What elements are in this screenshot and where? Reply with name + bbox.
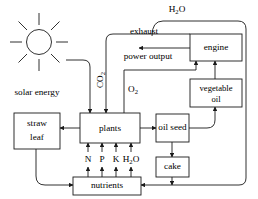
node-vegetable-oil[interactable]: vegetable oil: [190, 79, 242, 107]
label-nutrient-h2o-tail: O: [133, 154, 140, 164]
label-nutrient-h2o: H2O: [123, 154, 140, 165]
node-oil-seed-label: oil seed: [158, 122, 187, 132]
node-straw-leaf[interactable]: straw leaf: [14, 113, 60, 149]
edge-co2-to-plants: [106, 34, 190, 113]
label-nutrient-k: K: [113, 154, 120, 164]
node-plants[interactable]: plants: [80, 113, 140, 143]
sun-icon: [10, 13, 68, 71]
label-nutrient-p: P: [99, 154, 104, 164]
label-h2o-top: H2O: [169, 4, 186, 15]
svg-text:CO2: CO2: [95, 72, 106, 88]
label-co2-sub: 2: [99, 72, 106, 75]
label-exhaust: exhaust: [130, 26, 159, 36]
edge-seed-to-oil: [189, 107, 215, 128]
edge-solar-to-plants: [66, 60, 90, 113]
node-engine[interactable]: engine: [190, 34, 242, 61]
biofuel-cycle-diagram: plants straw leaf oil seed cake nutrient…: [0, 0, 258, 199]
label-h2o-top-tail: O: [179, 4, 186, 14]
label-o2-sub: 2: [135, 88, 138, 95]
label-solar-energy: solar energy: [15, 87, 60, 97]
label-power-output: power output: [124, 51, 173, 61]
node-vegetable-oil-label-line2: oil: [211, 94, 221, 104]
node-plants-label: plants: [99, 123, 121, 133]
node-straw-leaf-label-line1: straw: [27, 118, 47, 128]
node-oil-seed[interactable]: oil seed: [156, 114, 189, 142]
node-nutrients[interactable]: nutrients: [73, 177, 141, 195]
node-engine-label: engine: [204, 42, 229, 52]
diagram-canvas: plants straw leaf oil seed cake nutrient…: [0, 0, 258, 199]
node-straw-leaf-label-line2: leaf: [30, 132, 45, 142]
node-cake[interactable]: cake: [156, 157, 189, 177]
node-vegetable-oil-label-line1: vegetable: [200, 83, 233, 93]
label-co2: CO2: [95, 72, 106, 88]
label-nutrient-n: N: [85, 154, 92, 164]
label-o2: O2: [128, 84, 138, 95]
label-co2-main: CO: [95, 75, 105, 88]
edge-straw-to-nutrients: [36, 149, 73, 185]
node-nutrients-label: nutrients: [91, 180, 124, 190]
node-cake-label: cake: [164, 161, 181, 171]
